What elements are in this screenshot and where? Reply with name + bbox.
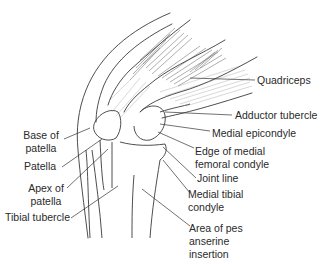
leader-medial-tibial-condyle bbox=[163, 160, 190, 193]
label-apex-of-patella: Apex of patella bbox=[25, 182, 67, 208]
label-tibial-tubercle: Tibial tubercle bbox=[5, 211, 70, 224]
leader-pes-anserine bbox=[142, 189, 190, 226]
label-patella: Patella bbox=[24, 160, 56, 173]
label-quadriceps: Quadriceps bbox=[257, 74, 311, 87]
label-adductor-tubercle: Adductor tubercle bbox=[235, 109, 317, 122]
label-medial-tibial-condyle: Medial tibial condyle bbox=[188, 188, 243, 214]
femur-shaft-lower bbox=[160, 104, 190, 112]
leader-edge-medial-femoral-condyle bbox=[158, 132, 194, 148]
leader-patella bbox=[62, 139, 102, 167]
tibial-plateau bbox=[120, 142, 166, 160]
femoral-condyle-outline bbox=[134, 106, 165, 140]
patellar-tendon bbox=[100, 140, 104, 190]
leader-joint-line bbox=[163, 147, 196, 178]
label-joint-line: Joint line bbox=[197, 172, 238, 185]
tibia-inner bbox=[132, 175, 134, 238]
label-area-of-pes-anserine-insertion: Area of pes anserine insertion bbox=[189, 222, 243, 261]
leader-tibial-tubercle bbox=[71, 186, 118, 218]
label-medial-epicondyle: Medial epicondyle bbox=[212, 127, 296, 140]
leader-medial-epicondyle bbox=[160, 124, 210, 131]
label-base-of-patella: Base of patella bbox=[19, 129, 63, 155]
label-edge-of-medial-femoral-condyle: Edge of medial femoral condyle bbox=[195, 145, 269, 171]
